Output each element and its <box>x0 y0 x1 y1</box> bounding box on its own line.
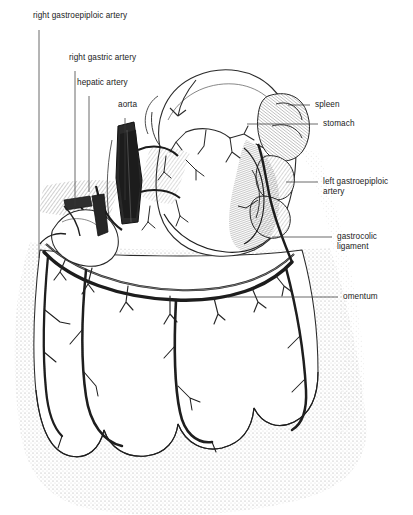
label-right-gastroepiploic-artery: right gastroepiploic artery <box>33 11 127 22</box>
label-aorta: aorta <box>118 100 137 111</box>
label-left-gastroepiploic-artery-line1: left gastroepiploic <box>323 177 388 188</box>
label-hepatic-artery: hepatic artery <box>77 78 128 89</box>
label-stomach: stomach <box>323 119 355 130</box>
label-spleen: spleen <box>315 100 340 111</box>
label-right-gastric-artery: right gastric artery <box>69 53 136 64</box>
label-gastrocolic-ligament-line1: gastrocolic <box>337 232 377 243</box>
label-left-gastroepiploic-artery-line2: artery <box>323 187 344 198</box>
illustration-canvas <box>0 0 413 515</box>
label-omentum: omentum <box>343 292 378 303</box>
anatomical-illustration: right gastroepiploic artery right gastri… <box>0 0 413 515</box>
aorta <box>107 122 142 224</box>
label-gastrocolic-ligament-line2: ligament <box>337 242 369 253</box>
